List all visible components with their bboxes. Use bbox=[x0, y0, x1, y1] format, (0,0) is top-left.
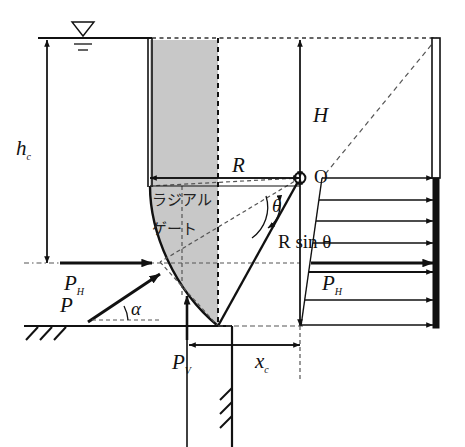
label-hc: hc bbox=[16, 136, 32, 162]
water-surface-symbol bbox=[72, 22, 94, 50]
label-gate-jp-line1: ラジアル bbox=[152, 191, 212, 209]
radius-line-to-gate-bottom bbox=[218, 178, 300, 326]
pressure-triangle-edge bbox=[301, 178, 322, 326]
label-PV: PV bbox=[171, 350, 193, 376]
label-PH-right: PH bbox=[321, 271, 343, 297]
pressure-triangle-dashed-upper bbox=[322, 38, 437, 178]
dimension-hc bbox=[24, 40, 150, 263]
label-xc: xc bbox=[254, 349, 269, 375]
label-gate-jp-line2: ゲート bbox=[152, 220, 197, 238]
ground-hatch-icon bbox=[26, 327, 66, 340]
dimension-xc bbox=[189, 326, 306, 345]
label-O: O bbox=[314, 166, 328, 187]
wall-lower-solid bbox=[433, 178, 439, 328]
force-arrow-P-resultant bbox=[88, 274, 160, 322]
label-alpha: α bbox=[131, 298, 142, 319]
label-P: P bbox=[59, 293, 73, 317]
alpha-angle-arc bbox=[124, 306, 128, 320]
label-H: H bbox=[312, 103, 330, 127]
wall-upper-hollow bbox=[432, 38, 440, 178]
label-R: R bbox=[231, 153, 245, 177]
theta-angle-arc-outer bbox=[252, 196, 268, 238]
label-R-sin-theta: R sin θ bbox=[278, 231, 331, 252]
radial-gate-diagram: hc H R O θ R sin θ ラジアル ゲート PH P α PV xc bbox=[0, 0, 465, 447]
support-pier bbox=[187, 326, 232, 447]
figure-container: hc H R O θ R sin θ ラジアル ゲート PH P α PV xc bbox=[0, 0, 465, 447]
label-theta: θ bbox=[272, 195, 281, 216]
